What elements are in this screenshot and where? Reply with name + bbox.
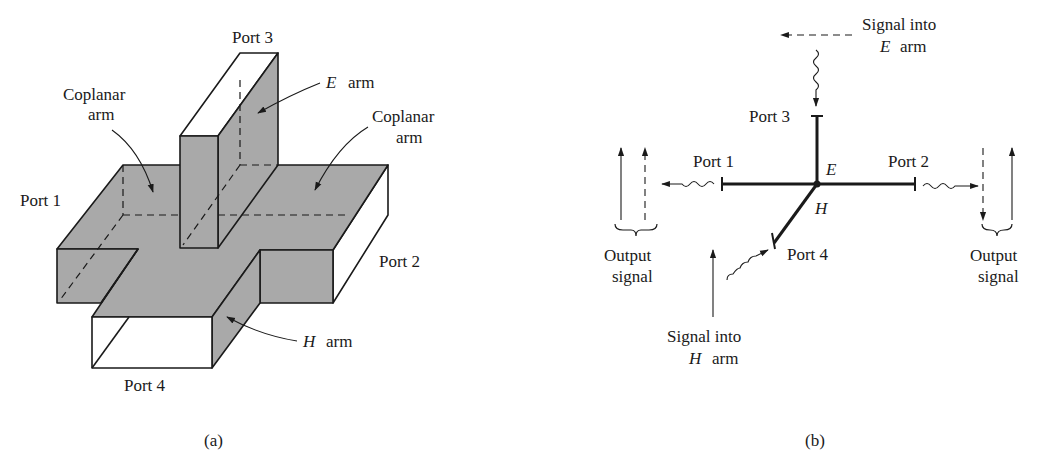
port4-label-b: Port 4 <box>787 245 829 264</box>
port4-label: Port 4 <box>124 376 166 395</box>
h-signal-wavy-arrow <box>727 250 768 280</box>
output-left-label-1: Output <box>604 246 652 265</box>
signal-h-label-1: Signal into <box>667 327 741 346</box>
h-arm-label-var: H <box>302 332 317 351</box>
port2-label: Port 2 <box>379 252 420 271</box>
output-right-label-1: Output <box>970 246 1018 265</box>
output-right-label-2: signal <box>978 267 1019 286</box>
right-output-brace <box>982 224 1012 236</box>
e-arm-label-var: E <box>325 73 337 92</box>
junction-dot <box>814 181 821 188</box>
h-arm-label-word: arm <box>326 332 352 351</box>
figure-b-schematic <box>615 35 1012 317</box>
caption-b: (b) <box>805 431 825 450</box>
e-arm-front-face <box>180 136 218 248</box>
signal-h-label-word: arm <box>712 349 738 368</box>
port1-output-wavy-arrow <box>662 182 714 187</box>
coplanar-right-label-1: Coplanar <box>372 107 435 126</box>
magic-tee-figure: Port 3 Coplanar arm Coplanar arm E arm P… <box>0 0 1045 472</box>
coplanar-left-label-2: arm <box>88 105 114 124</box>
coplanar-left-label-1: Coplanar <box>63 85 126 104</box>
arm-port4 <box>774 184 817 243</box>
port2-label-b: Port 2 <box>888 152 929 171</box>
port3-label: Port 3 <box>232 28 273 47</box>
output-left-label-2: signal <box>612 267 653 286</box>
port1-label-b: Port 1 <box>693 152 734 171</box>
signal-h-label-var: H <box>688 349 703 368</box>
port1-label: Port 1 <box>20 191 61 210</box>
figure-b-labels: Signal into E arm Port 3 Port 1 Port 2 E… <box>604 15 1019 450</box>
e-signal-wavy-arrow <box>814 50 819 106</box>
port2-output-wavy-arrow <box>923 184 978 189</box>
e-arm-label-word: arm <box>348 73 374 92</box>
port3-label-b: Port 3 <box>749 107 790 126</box>
signal-e-label-var: E <box>879 37 891 56</box>
coplanar-right-label-2: arm <box>396 128 422 147</box>
signal-e-label-1: Signal into <box>862 15 936 34</box>
caption-a: (a) <box>204 431 223 450</box>
signal-e-label-word: arm <box>900 37 926 56</box>
junction-e-label: E <box>825 160 837 179</box>
port2-front-face <box>260 250 333 303</box>
left-output-brace <box>615 224 657 236</box>
junction-h-label: H <box>814 199 829 218</box>
